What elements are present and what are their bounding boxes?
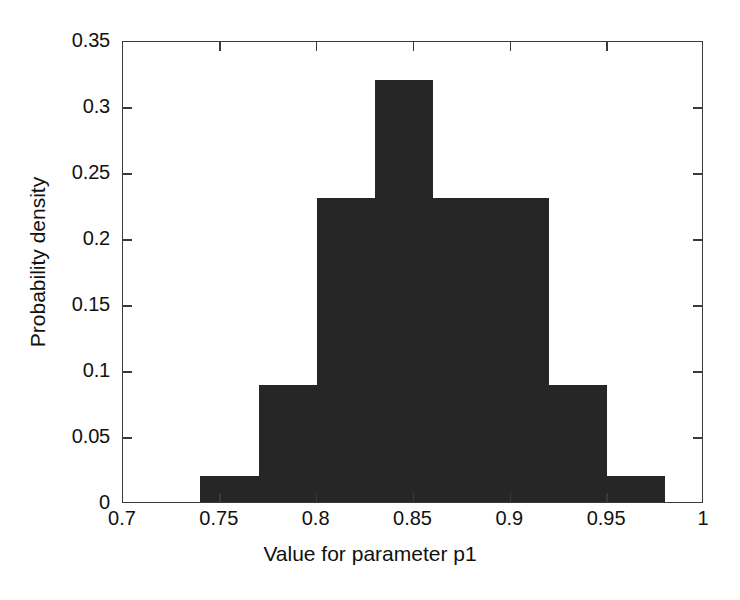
y-tick-label: 0.3 [0,96,110,116]
y-tick-mark [693,107,702,109]
x-tick-mark [510,493,512,502]
x-tick-label: 0.9 [495,506,523,530]
x-tick-label: 0.8 [302,506,330,530]
x-tick-label: 0.95 [587,506,626,530]
x-tick-mark [413,493,415,502]
x-tick-mark [219,42,221,51]
histogram-bar [200,476,258,502]
y-tick-mark [123,371,132,373]
x-tick-mark [510,42,512,51]
y-tick-mark [693,371,702,373]
y-tick-mark [123,107,132,109]
x-tick-label: 0.85 [393,506,432,530]
y-tick-label: 0.35 [0,30,110,50]
x-tick-label: 0.75 [199,506,238,530]
histogram-bar [317,198,375,502]
y-tick-label: 0.05 [0,426,110,446]
y-tick-mark [123,173,132,175]
histogram-bar [433,198,491,502]
x-axis-title: Value for parameter p1 [0,542,740,566]
histogram-bar [491,198,549,502]
x-tick-mark [413,42,415,51]
y-tick-mark [693,305,702,307]
y-tick-label: 0.15 [0,294,110,314]
bar-series [123,42,702,502]
x-tick-label: 1 [697,506,708,530]
y-tick-mark [693,239,702,241]
y-tick-mark [123,239,132,241]
y-tick-mark [123,305,132,307]
x-tick-mark [316,493,318,502]
histogram-bar [607,476,665,502]
y-tick-label: 0.2 [0,228,110,248]
x-axis-tick-labels: 0.70.750.80.850.90.951 [0,506,740,536]
y-tick-mark [693,173,702,175]
y-tick-label: 0.1 [0,360,110,380]
y-tick-mark [693,437,702,439]
histogram-bar [375,80,433,502]
y-axis-title: Probability density [26,142,50,382]
x-tick-mark [219,493,221,502]
x-tick-mark [606,493,608,502]
histogram-bar [549,385,607,502]
y-tick-label: 0.25 [0,162,110,182]
histogram-figure: 00.050.10.150.20.250.30.35 0.70.750.80.8… [0,0,740,600]
histogram-bar [259,385,317,502]
x-tick-label: 0.7 [108,506,136,530]
y-tick-mark [123,437,132,439]
x-tick-mark [606,42,608,51]
plot-area [122,41,703,503]
x-tick-mark [316,42,318,51]
